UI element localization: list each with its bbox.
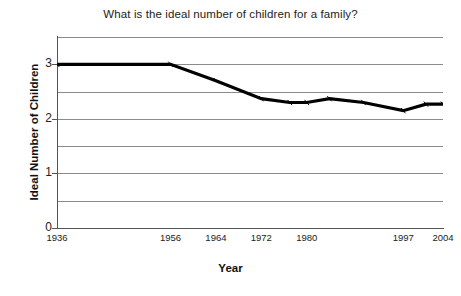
chart-container: What is the ideal number of children for… <box>0 0 461 296</box>
x-tick-label: 1972 <box>241 232 281 243</box>
y-tick-label: 1 <box>30 165 52 179</box>
data-line-series <box>57 37 443 228</box>
y-tick-mark <box>52 228 58 229</box>
x-tick-label: 1964 <box>196 232 236 243</box>
chart-title: What is the ideal number of children for… <box>0 8 461 20</box>
x-tick-label: 1936 <box>37 232 77 243</box>
x-tick-label: 1980 <box>287 232 327 243</box>
y-tick-label: 3 <box>30 56 52 70</box>
x-axis-line <box>57 228 444 229</box>
x-tick-label: 1997 <box>383 232 423 243</box>
x-tick-label: 2004 <box>423 232 461 243</box>
x-axis-title: Year <box>0 262 461 274</box>
x-tick-label: 1956 <box>151 232 191 243</box>
y-tick-label: 2 <box>30 111 52 125</box>
